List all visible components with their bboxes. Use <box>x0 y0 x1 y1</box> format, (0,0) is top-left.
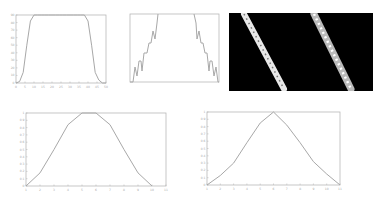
svg-text:0.3: 0.3 <box>201 161 206 165</box>
svg-text:7: 7 <box>109 188 111 192</box>
svg-text:5: 5 <box>259 187 261 191</box>
svg-text:8: 8 <box>123 188 125 192</box>
svg-text:11: 11 <box>164 188 168 192</box>
svg-text:25: 25 <box>59 85 63 89</box>
svg-text:0.2: 0.2 <box>20 169 25 173</box>
jagged-line-chart <box>122 9 224 91</box>
svg-text:0.5: 0.5 <box>201 147 206 151</box>
plot-triangle: 123456789101100.10.20.30.40.50.60.70.80.… <box>198 107 346 195</box>
svg-text:10: 10 <box>150 188 154 192</box>
svg-text:5: 5 <box>81 188 83 192</box>
svg-text:70: 70 <box>11 28 15 32</box>
svg-text:6: 6 <box>95 188 97 192</box>
svg-text:20: 20 <box>11 66 15 70</box>
svg-text:40: 40 <box>11 51 15 55</box>
svg-text:7: 7 <box>286 187 288 191</box>
svg-text:0.9: 0.9 <box>20 118 25 122</box>
svg-text:35: 35 <box>77 85 81 89</box>
svg-text:4: 4 <box>246 187 248 191</box>
bell-flat-line-chart: 123456789101100.10.20.30.40.50.60.70.80.… <box>16 108 172 196</box>
svg-text:9: 9 <box>137 188 139 192</box>
svg-text:80: 80 <box>11 21 15 25</box>
svg-text:0: 0 <box>15 85 17 89</box>
svg-text:50: 50 <box>104 85 108 89</box>
svg-text:0.4: 0.4 <box>201 154 206 158</box>
svg-text:10: 10 <box>325 187 329 191</box>
svg-text:6: 6 <box>273 187 275 191</box>
svg-text:4: 4 <box>67 188 69 192</box>
svg-text:30: 30 <box>11 58 15 62</box>
svg-text:3: 3 <box>233 187 235 191</box>
svg-text:20: 20 <box>50 85 54 89</box>
svg-text:0.9: 0.9 <box>201 117 206 121</box>
svg-text:0.4: 0.4 <box>20 155 25 159</box>
svg-text:15: 15 <box>41 85 45 89</box>
svg-text:1: 1 <box>23 111 25 115</box>
stripe-image <box>229 13 373 91</box>
svg-text:10: 10 <box>11 73 15 77</box>
svg-text:0.1: 0.1 <box>201 176 206 180</box>
svg-text:0: 0 <box>204 183 206 187</box>
svg-text:0: 0 <box>13 81 15 85</box>
svg-text:0.6: 0.6 <box>20 140 25 144</box>
svg-text:90: 90 <box>11 13 15 17</box>
svg-text:50: 50 <box>11 43 15 47</box>
svg-text:0.7: 0.7 <box>20 133 25 137</box>
svg-text:45: 45 <box>95 85 99 89</box>
svg-text:2: 2 <box>39 188 41 192</box>
svg-text:0.8: 0.8 <box>201 125 206 129</box>
plot-jagged <box>122 9 224 91</box>
svg-text:0.8: 0.8 <box>20 126 25 130</box>
svg-text:3: 3 <box>53 188 55 192</box>
svg-text:9: 9 <box>312 187 314 191</box>
svg-text:1: 1 <box>206 187 208 191</box>
plot-bell-flat: 123456789101100.10.20.30.40.50.60.70.80.… <box>16 108 172 196</box>
svg-text:40: 40 <box>86 85 90 89</box>
svg-text:2: 2 <box>219 187 221 191</box>
svg-text:1: 1 <box>204 110 206 114</box>
svg-text:10: 10 <box>32 85 36 89</box>
svg-text:0.2: 0.2 <box>201 168 206 172</box>
svg-text:1: 1 <box>25 188 27 192</box>
triangle-line-chart: 123456789101100.10.20.30.40.50.60.70.80.… <box>198 107 346 195</box>
svg-text:0.6: 0.6 <box>201 139 206 143</box>
svg-text:0.7: 0.7 <box>201 132 206 136</box>
svg-text:0: 0 <box>23 184 25 188</box>
svg-text:60: 60 <box>11 36 15 40</box>
svg-text:0.1: 0.1 <box>20 177 25 181</box>
image-stripes <box>229 13 373 91</box>
svg-text:11: 11 <box>338 187 342 191</box>
plot-plateau: 051015202530354045500102030405060708090 <box>8 10 112 92</box>
svg-text:30: 30 <box>68 85 72 89</box>
svg-text:0.5: 0.5 <box>20 148 25 152</box>
svg-text:5: 5 <box>24 85 26 89</box>
svg-text:0.3: 0.3 <box>20 162 25 166</box>
plateau-line-chart: 051015202530354045500102030405060708090 <box>8 10 112 92</box>
svg-text:8: 8 <box>299 187 301 191</box>
